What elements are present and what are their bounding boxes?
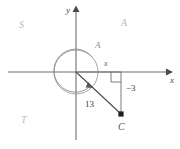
circle-arc-label-a: A xyxy=(95,41,101,50)
right-angle-marker xyxy=(111,72,121,82)
quadrant-label-a: A xyxy=(121,18,127,28)
quadrant-label-t: T xyxy=(21,115,27,125)
point-c-label: C xyxy=(118,122,125,132)
horizontal-leg-label-x: x xyxy=(104,60,108,68)
figure-vector-layer xyxy=(0,0,180,149)
quadrant-label-s: S xyxy=(19,20,24,30)
point-c-marker xyxy=(118,111,123,116)
math-figure-canvas: y x S A T A x −3 13 C xyxy=(0,0,180,149)
radius-length-label-13: 13 xyxy=(85,100,94,109)
y-axis-arrowhead xyxy=(73,6,80,13)
y-axis-label: y xyxy=(66,6,70,15)
x-axis-label: x xyxy=(170,76,174,85)
vertical-leg-label-minus-three: −3 xyxy=(126,84,136,93)
